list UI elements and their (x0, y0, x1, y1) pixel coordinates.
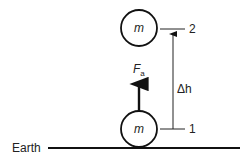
level-top-label: 2 (189, 22, 196, 36)
mass-top-label: m (134, 21, 144, 35)
height-label: Δh (177, 82, 192, 96)
earth-label: Earth (12, 141, 41, 155)
work-gravity-diagram: Earth m m Fa 2 1 Δh (0, 0, 251, 161)
level-bottom-label: 1 (189, 122, 196, 136)
mass-bottom-label: m (134, 122, 144, 136)
force-label: Fa (133, 62, 145, 78)
